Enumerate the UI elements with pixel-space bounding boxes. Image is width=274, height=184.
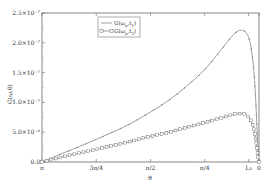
square-marker-icon (110, 145, 113, 148)
square-marker-icon (133, 139, 136, 142)
point-marker-icon (59, 154, 60, 155)
point-marker-icon (235, 32, 236, 33)
square-marker-icon (105, 146, 108, 149)
square-marker-icon (170, 130, 173, 133)
point-marker-icon (256, 123, 257, 124)
square-marker-icon (68, 154, 71, 157)
series-line (42, 30, 259, 162)
point-marker-icon (205, 68, 206, 69)
point-marker-icon (255, 104, 256, 105)
square-marker-icon (165, 131, 168, 134)
square-marker-icon (77, 152, 80, 155)
point-marker-icon (229, 39, 230, 40)
square-marker-icon (101, 147, 104, 150)
square-marker-icon (96, 148, 99, 151)
x-tick-label: π/4 (200, 164, 210, 171)
square-marker-icon (64, 155, 67, 158)
square-marker-icon (211, 119, 214, 122)
square-marker-icon (142, 137, 145, 140)
chart: 0.05.0×10⁻⁸1.0×10⁻⁷1.5×10⁻⁷2.0×10⁻⁷2.5×1… (0, 0, 274, 184)
square-marker-icon (224, 115, 227, 118)
point-marker-icon (153, 109, 154, 110)
square-marker-icon (247, 115, 250, 118)
legend: G(ωp,t1) G(ωp,t2) (98, 17, 140, 37)
square-marker-icon (183, 127, 186, 130)
x-tick-label: π/2 (146, 164, 156, 171)
square-marker-icon (137, 138, 140, 141)
square-marker-icon (160, 132, 163, 135)
square-marker-icon (119, 142, 122, 145)
y-tick-label: 0.0 (30, 158, 40, 165)
square-marker-icon (41, 161, 44, 164)
square-marker-icon (73, 153, 76, 156)
square-marker-icon (50, 158, 53, 161)
square-marker-icon (258, 161, 261, 164)
point-marker-icon (257, 133, 258, 134)
square-marker-icon (87, 150, 90, 153)
plot-frame (42, 13, 259, 162)
point-marker-icon (254, 76, 255, 77)
square-marker-icon (188, 125, 191, 128)
square-marker-icon (257, 156, 260, 159)
point-marker-icon (211, 61, 212, 62)
point-marker-icon (223, 46, 224, 47)
square-marker-icon (124, 141, 127, 144)
point-marker-icon (176, 93, 177, 94)
square-marker-icon (156, 133, 159, 136)
square-marker-icon (59, 156, 62, 159)
point-marker-icon (145, 114, 146, 115)
square-marker-icon (253, 128, 256, 131)
point-marker-icon (253, 67, 254, 68)
square-marker-icon (202, 122, 205, 125)
square-marker-icon (147, 136, 150, 139)
square-marker-icon (229, 114, 232, 117)
point-marker-icon (76, 147, 77, 148)
point-marker-icon (254, 86, 255, 87)
x-tick-label: 0 (257, 164, 261, 171)
square-marker-icon (256, 151, 259, 154)
square-marker-icon (91, 149, 94, 152)
square-marker-icon (249, 119, 252, 122)
square-marker-icon (253, 133, 256, 136)
point-marker-icon (111, 132, 112, 133)
point-marker-icon (85, 143, 86, 144)
point-marker-icon (103, 136, 104, 137)
x-axis-ticks: π3π/4π/2π/4L₀0 (40, 13, 261, 171)
square-marker-icon (151, 134, 154, 137)
square-marker-icon (254, 137, 257, 140)
point-marker-icon (94, 139, 95, 140)
point-marker-icon (244, 31, 245, 32)
y-tick-label: 1.5×10⁻⁷ (12, 69, 40, 76)
point-marker-icon (256, 114, 257, 115)
square-marker-icon (179, 128, 182, 131)
square-marker-icon (128, 140, 131, 143)
point-marker-icon (120, 128, 121, 129)
point-marker-icon (68, 150, 69, 151)
y-tick-label: 1.0×10⁻⁷ (12, 98, 40, 105)
square-marker-icon (45, 159, 48, 162)
point-marker-icon (255, 95, 256, 96)
square-marker-icon (174, 129, 177, 132)
y-tick-label: 2.5×10⁻⁷ (12, 9, 40, 16)
square-marker-icon (234, 113, 237, 116)
point-marker-icon (217, 54, 218, 55)
square-marker-icon (100, 30, 103, 33)
y-tick-label: 2.0×10⁻⁷ (12, 39, 40, 46)
point-marker-icon (161, 104, 162, 105)
square-marker-icon (197, 123, 200, 126)
square-marker-icon (255, 147, 258, 150)
square-marker-icon (114, 143, 117, 146)
x-tick-label: 3π/4 (89, 164, 103, 171)
square-marker-icon (251, 123, 254, 126)
point-marker-icon (249, 39, 250, 40)
y-axis-title: G(ω,θ) (6, 84, 13, 104)
y-tick-label: 5.0×10⁻⁸ (12, 128, 40, 135)
square-marker-icon (192, 124, 195, 127)
point-marker-icon (191, 81, 192, 82)
point-marker-icon (184, 87, 185, 88)
plot-area-border (42, 13, 259, 162)
point-marker-icon (169, 99, 170, 100)
x-axis-title: θ (148, 174, 152, 181)
series-2 (41, 112, 261, 163)
y-axis-ticks: 0.05.0×10⁻⁸1.0×10⁻⁷1.5×10⁻⁷2.0×10⁻⁷2.5×1… (12, 9, 45, 165)
